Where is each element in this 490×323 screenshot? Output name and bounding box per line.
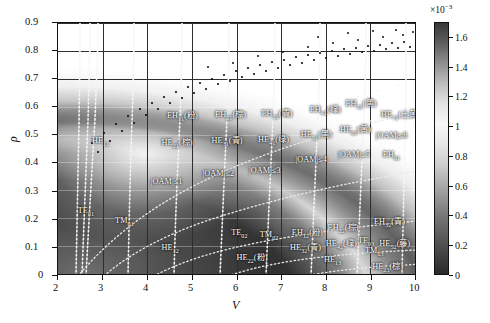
mode-label-te02: TE02	[231, 228, 247, 239]
cblabel-0.8: 0.8	[455, 151, 468, 162]
xtick-7	[281, 275, 282, 280]
ylabel-0.2: 0.2	[25, 213, 38, 224]
mode-label-he61: HE61(黄)	[340, 122, 371, 136]
mode-label-eh22: EH22(棕)	[328, 220, 359, 234]
mode-label-he32: HE32(青)	[290, 240, 321, 254]
mode-label-he22: HE22(粉)	[237, 250, 268, 264]
xlabel-8: 8	[322, 282, 327, 293]
cblabel-1.6: 1.6	[455, 32, 468, 43]
cblabel-1.4: 1.4	[455, 62, 468, 73]
oam-region-label-6: |OAM|≤6	[376, 131, 408, 140]
cbtick-1.4	[449, 67, 453, 68]
cbtick-0.2	[449, 245, 453, 246]
oam-region-label-4: |OAM|≤4	[295, 155, 327, 164]
gridline-v-7	[281, 23, 282, 274]
xtick-9	[371, 275, 372, 280]
cblabel-0.6: 0.6	[455, 181, 468, 192]
oam-region-label-5: |OAM|≤5	[338, 150, 370, 159]
mode-label-he21: HE21(棕)	[162, 135, 193, 149]
xlabel-9: 9	[367, 282, 372, 293]
xlabel-5: 5	[188, 282, 193, 293]
xlabel-7: 7	[278, 282, 283, 293]
cbtick-0.8	[449, 156, 453, 157]
oam-region-label-1: |OAM|≤1	[151, 177, 183, 186]
mode-label-he23: HE23(棕)	[372, 259, 403, 273]
ytick-0.7	[52, 78, 57, 79]
ylabel-0.1: 0.1	[25, 241, 38, 252]
xtick-2	[57, 275, 58, 280]
xlabel-10: 10	[409, 282, 420, 293]
gridline-v-4	[147, 23, 148, 274]
oam-region-label-3: |OAM|≤3	[249, 166, 281, 175]
mode-label-eh21: EH21(棕)	[215, 107, 246, 121]
ylabel-0.6: 0.6	[25, 100, 38, 111]
mode-label-he31: HE31(青)	[212, 133, 243, 147]
cblabel-1: 1	[455, 121, 460, 132]
ytick-0.1	[52, 247, 57, 248]
gridline-v-3	[103, 23, 104, 274]
ylabel-0.9: 0.9	[25, 16, 38, 27]
cbtick-0.4	[449, 215, 453, 216]
xtick-3	[102, 275, 103, 280]
mode-label-tm02: TM02	[260, 230, 279, 241]
xlabel-6: 6	[233, 282, 238, 293]
mode-label-te01: TE01	[78, 206, 94, 217]
cbtick-0	[449, 275, 453, 276]
xlabel-2: 2	[53, 282, 58, 293]
ylabel-0: 0	[38, 269, 43, 280]
mode-label-tm01: TM01	[115, 216, 134, 227]
mode-label-eh31: EH31(青)	[261, 106, 292, 120]
mode-label-eh11: EH11(粉)	[167, 108, 198, 122]
xtick-4	[147, 275, 148, 280]
cbtick-1.2	[449, 96, 453, 97]
ytick-0.5	[52, 134, 57, 135]
ytick-0.4	[52, 162, 57, 163]
cblabel-0: 0	[455, 270, 460, 281]
ytick-0.3	[52, 191, 57, 192]
mode-label-he52: HE52(藤)	[379, 236, 410, 250]
oam-region-label-2: |OAM|≤2	[203, 169, 235, 178]
ylabel-0.8: 0.8	[25, 44, 38, 55]
ytick-0.2	[52, 219, 57, 220]
cblabel-1.2: 1.2	[455, 91, 468, 102]
x-axis-title: V	[232, 298, 239, 313]
xlabel-4: 4	[143, 282, 148, 293]
ylabel-0.4: 0.4	[25, 156, 38, 167]
xtick-8	[326, 275, 327, 280]
gridline-v-5	[192, 23, 193, 274]
xtick-5	[192, 275, 193, 280]
figure-container: HE11 TE01 TM01 EH11(粉) HE21(棕) EH21(棕) H…	[0, 0, 490, 323]
cblabel-0.4: 0.4	[455, 210, 468, 221]
ytick-0.6	[52, 106, 57, 107]
mode-label-he51: HE51(黑)	[301, 127, 332, 141]
mode-label-he11: HE11	[92, 136, 109, 147]
mode-label-eh12: EH12(粉)	[292, 225, 323, 239]
mode-label-he42: HE42(绿)	[326, 236, 357, 250]
ylabel-0.3: 0.3	[25, 185, 38, 196]
mode-label-tm03: TM03	[365, 246, 384, 257]
mode-label-he12: HE12	[162, 243, 179, 254]
xlabel-3: 3	[98, 282, 103, 293]
mode-label-eh41: EH41(绿)	[310, 102, 341, 116]
mode-label-eh51: EH51(黑)	[345, 96, 376, 110]
cbtick-1.6	[449, 37, 453, 38]
ylabel-0.5: 0.5	[25, 128, 38, 139]
colorbar	[434, 22, 449, 275]
mode-label-eh32: EH32(青)	[374, 214, 405, 228]
xtick-10	[415, 275, 416, 280]
cbtick-0.6	[449, 186, 453, 187]
mode-label-he71: HE71(土黄)	[381, 107, 416, 121]
mode-label-eh61: EH61	[383, 150, 400, 161]
ylabel-0.7: 0.7	[25, 72, 38, 83]
cblabel-0.2: 0.2	[455, 240, 468, 251]
xtick-6	[237, 275, 238, 280]
mode-label-he13: HE13	[324, 255, 341, 266]
cbtick-1	[449, 126, 453, 127]
ytick-0.9	[52, 22, 57, 23]
heatmap-plot-area: HE11 TE01 TM01 EH11(粉) HE21(棕) EH21(棕) H…	[57, 22, 416, 275]
ytick-0.8	[52, 50, 57, 51]
y-axis-title: ρ	[6, 136, 21, 142]
mode-label-he41: HE41(绿)	[258, 132, 289, 146]
colorbar-exponent: ×10−3	[430, 3, 452, 15]
